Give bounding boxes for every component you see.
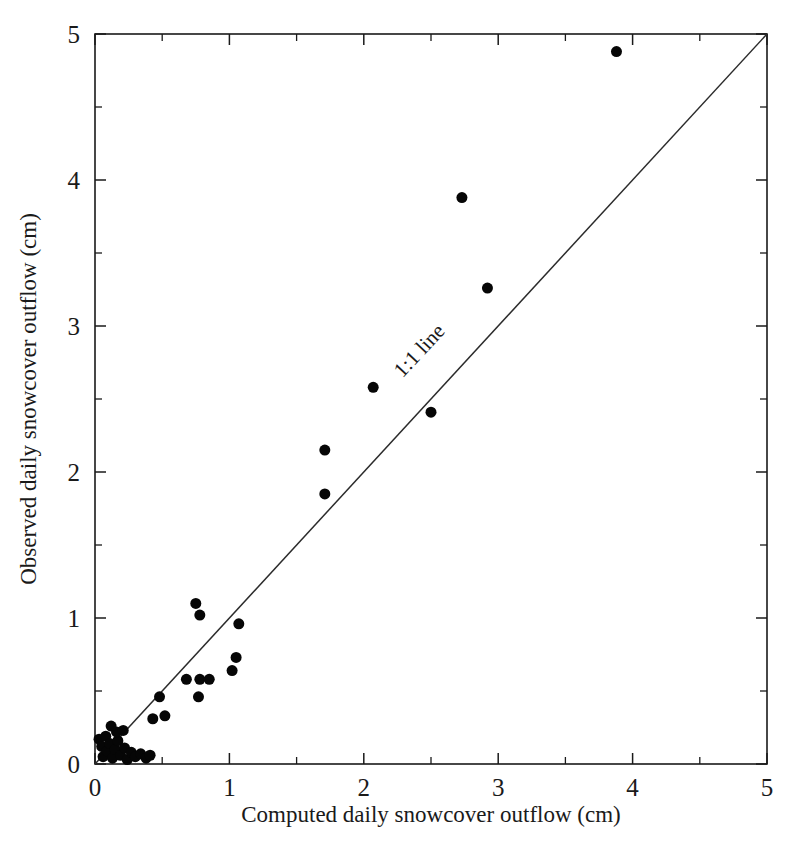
y-tick-label: 1 <box>68 605 81 632</box>
x-tick-label: 0 <box>89 774 102 801</box>
data-point <box>611 46 622 57</box>
data-point <box>233 618 244 629</box>
data-point <box>227 665 238 676</box>
data-point <box>106 721 117 732</box>
data-point <box>154 691 165 702</box>
data-point <box>193 691 204 702</box>
data-point <box>194 610 205 621</box>
y-tick-label: 5 <box>68 21 81 48</box>
data-point <box>231 652 242 663</box>
x-tick-label: 2 <box>358 774 371 801</box>
data-point <box>426 407 437 418</box>
y-tick-label: 2 <box>68 459 81 486</box>
y-axis-title: Observed daily snowcover outflow (cm) <box>16 213 41 585</box>
data-point <box>319 488 330 499</box>
one-to-one-reference-line <box>95 34 767 764</box>
chart-canvas: 012345012345 1:1 line Computed daily sno… <box>0 0 792 844</box>
data-point <box>190 598 201 609</box>
x-tick-label: 3 <box>492 774 505 801</box>
annotation-group: 1:1 line <box>389 319 450 382</box>
data-point <box>194 674 205 685</box>
data-point <box>319 445 330 456</box>
data-point <box>145 750 156 761</box>
scatter-plot-figure: 012345012345 1:1 line Computed daily sno… <box>0 0 792 844</box>
data-point <box>204 674 215 685</box>
data-point <box>118 725 129 736</box>
y-tick-label: 0 <box>68 751 81 778</box>
x-tick-label: 1 <box>223 774 236 801</box>
x-tick-label: 4 <box>626 774 639 801</box>
data-point <box>147 713 158 724</box>
data-point-group <box>94 46 622 765</box>
x-tick-label: 5 <box>761 774 774 801</box>
data-point <box>456 192 467 203</box>
x-axis-title: Computed daily snowcover outflow (cm) <box>241 802 620 827</box>
data-point <box>181 674 192 685</box>
y-tick-label: 4 <box>68 167 81 194</box>
y-tick-label: 3 <box>68 313 81 340</box>
identity-line <box>95 34 767 764</box>
data-point <box>482 283 493 294</box>
one-to-one-line-label: 1:1 line <box>389 319 450 382</box>
data-point <box>368 382 379 393</box>
data-point <box>159 710 170 721</box>
